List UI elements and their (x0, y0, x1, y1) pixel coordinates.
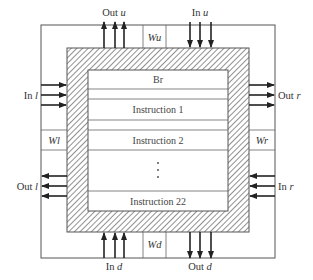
svg-text:Wu: Wu (148, 32, 161, 43)
svg-text:Wr: Wr (256, 135, 269, 146)
cell-diagram: Br Instruction 1 Instruction 2 Instructi… (0, 0, 313, 280)
svg-text:Out r: Out r (278, 90, 301, 101)
port-out-u: Out u (102, 7, 126, 48)
row-instruction-2-label: Instruction 2 (133, 135, 184, 146)
svg-text:Wl: Wl (48, 135, 60, 146)
svg-text:In r: In r (278, 181, 294, 192)
port-in-r: In r (250, 176, 294, 196)
port-in-d: In d (104, 233, 124, 272)
svg-text:In l: In l (24, 90, 38, 101)
svg-text:Out u: Out u (102, 7, 126, 18)
register-wr: Wr (249, 130, 275, 150)
row-instruction-1-label: Instruction 1 (133, 104, 184, 115)
register-wu: Wu (143, 25, 166, 48)
port-out-d: Out d (188, 232, 212, 272)
register-wd: Wd (143, 232, 166, 258)
port-out-l: Out l (17, 176, 67, 196)
port-in-l: In l (24, 85, 66, 105)
svg-text:In u: In u (192, 7, 209, 18)
register-wl: Wl (41, 130, 67, 150)
svg-text:In d: In d (106, 261, 123, 272)
svg-text:Out d: Out d (188, 261, 212, 272)
svg-text:Wd: Wd (148, 239, 163, 250)
row-br-label: Br (153, 74, 164, 85)
port-in-u: In u (190, 7, 211, 47)
row-instruction-22-label: Instruction 22 (130, 196, 186, 207)
svg-text:Out l: Out l (17, 181, 38, 192)
